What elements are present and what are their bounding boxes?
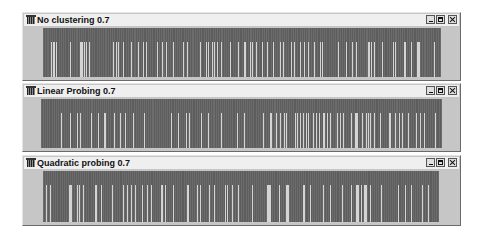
hash-table-window-2[interactable]: Linear Probing 0.7 bbox=[22, 83, 461, 152]
app-icon[interactable] bbox=[26, 158, 36, 168]
minimize-icon[interactable] bbox=[426, 86, 435, 95]
title-bar[interactable]: No clustering 0.7 bbox=[24, 14, 459, 26]
app-icon[interactable] bbox=[26, 86, 36, 96]
occupied-slot bbox=[441, 99, 442, 148]
close-icon[interactable] bbox=[448, 15, 457, 24]
title-bar[interactable]: Quadratic probing 0.7 bbox=[24, 157, 459, 169]
slot-occupancy-plot bbox=[43, 171, 439, 222]
occupied-slot bbox=[440, 28, 441, 77]
maximize-icon[interactable] bbox=[436, 158, 445, 167]
maximize-icon[interactable] bbox=[436, 15, 445, 24]
window-controls bbox=[426, 15, 457, 24]
hash-table-window-3[interactable]: Quadratic probing 0.7 bbox=[22, 155, 461, 226]
window-controls bbox=[426, 158, 457, 167]
maximize-icon[interactable] bbox=[436, 86, 445, 95]
minimize-icon[interactable] bbox=[426, 158, 435, 167]
slot-occupancy-plot bbox=[41, 99, 441, 148]
slot-occupancy-plot bbox=[43, 28, 441, 77]
title-bar[interactable]: Linear Probing 0.7 bbox=[24, 85, 459, 97]
window-title: Quadratic probing 0.7 bbox=[37, 158, 130, 168]
window-title: No clustering 0.7 bbox=[37, 15, 110, 25]
occupied-slot bbox=[438, 171, 439, 222]
window-controls bbox=[426, 86, 457, 95]
hash-table-window-1[interactable]: No clustering 0.7 bbox=[22, 12, 461, 81]
close-icon[interactable] bbox=[448, 86, 457, 95]
window-title: Linear Probing 0.7 bbox=[37, 86, 116, 96]
app-icon[interactable] bbox=[26, 15, 36, 25]
close-icon[interactable] bbox=[448, 158, 457, 167]
minimize-icon[interactable] bbox=[426, 15, 435, 24]
